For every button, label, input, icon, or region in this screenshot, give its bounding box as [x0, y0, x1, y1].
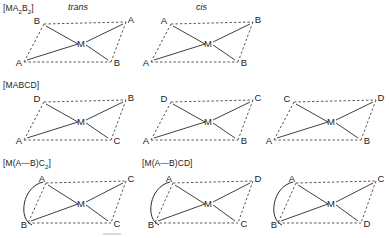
vertex-top-left: C [284, 93, 291, 104]
bond-m-topright [213, 183, 250, 202]
diagram-mabcd-1: D B A C M [18, 92, 143, 150]
bond-m-bottomright [86, 123, 108, 138]
vertex-top-left: A [39, 173, 46, 184]
bond-m-bottomleft [158, 204, 205, 221]
bond-m-topleft [175, 185, 205, 204]
vertex-bottom-right: D [364, 218, 371, 229]
edge-left [151, 24, 171, 62]
formula-ma2b2-prefix: [MA [3, 3, 18, 13]
bond-m-bottomright [213, 45, 235, 60]
metal-center: M [327, 198, 335, 209]
vertex-top-right: D [255, 173, 262, 184]
row-ma2b2: [MA2B2] trans B A A B M ci [0, 0, 384, 78]
bond-m-bottomright [336, 205, 358, 221]
vertex-bottom-left: A [143, 57, 150, 68]
edge-right [238, 100, 253, 140]
vertex-top-right: A [128, 14, 135, 25]
formula-chelate-c2-prefix: [M(A—B)C [3, 158, 45, 168]
formula-ma2b2: [MA2B2] [3, 3, 34, 15]
diagram-trans: B A A B M [18, 14, 143, 72]
vertex-bottom-right: B [364, 135, 370, 146]
bond-m-bottomright [213, 123, 235, 138]
bond-m-topright [86, 102, 123, 120]
bond-m-topright [213, 24, 250, 42]
edge-right [361, 100, 376, 140]
bond-m-topleft [173, 26, 205, 44]
metal-center: M [77, 198, 85, 209]
bond-m-topright [86, 183, 123, 202]
vertex-top-left: D [161, 93, 168, 104]
bond-m-topright [336, 102, 373, 120]
metal-center: M [204, 38, 212, 49]
vertex-bottom-left: A [143, 135, 150, 146]
bond-m-topleft [46, 104, 78, 122]
bond-m-topleft [298, 185, 328, 204]
metal-center: M [77, 38, 85, 49]
bond-m-bottomleft [27, 44, 78, 60]
vertex-bottom-right: B [241, 135, 247, 146]
metal-center: M [77, 116, 85, 127]
edge-right [238, 22, 253, 62]
scan-artifact [103, 233, 121, 235]
vertex-top-left: D [34, 93, 41, 104]
edge-top [171, 22, 253, 24]
metal-center: M [204, 116, 212, 127]
vertex-top-right: B [128, 92, 134, 103]
vertex-top-right: C [378, 173, 385, 184]
edge-top [44, 100, 126, 102]
vertex-top-right: B [255, 14, 261, 25]
diagram-chelate-3: A C B D M [268, 173, 389, 233]
bond-m-bottomleft [27, 122, 78, 138]
bond-m-bottomright [86, 205, 108, 221]
vertex-bottom-left: B [148, 219, 154, 230]
edge-right [111, 100, 126, 140]
bond-m-bottomright [86, 45, 108, 60]
bond-m-bottomright [213, 205, 235, 221]
isomer-label-trans: trans [68, 2, 88, 12]
vertex-bottom-left: A [266, 135, 273, 146]
edge-left [151, 102, 171, 140]
bond-m-topleft [296, 104, 328, 122]
bond-m-bottomright [336, 123, 358, 138]
vertex-top-left: A [166, 173, 173, 184]
edge-right [111, 181, 126, 223]
isomer-label-cis: cis [196, 2, 207, 12]
edge-right [238, 181, 253, 223]
bond-m-topright [213, 102, 250, 120]
bond-m-topright [86, 24, 123, 42]
edge-top [171, 100, 253, 102]
edge-left [24, 24, 44, 62]
vertex-top-left: A [161, 15, 168, 26]
edge-left [24, 102, 44, 140]
bond-m-bottomleft [154, 44, 205, 60]
vertex-bottom-right: B [114, 57, 120, 68]
vertex-bottom-right: B [241, 57, 247, 68]
bond-m-topleft [48, 185, 78, 204]
edge-left [274, 102, 294, 140]
bond-m-bottomleft [154, 122, 205, 138]
vertex-bottom-left: B [271, 219, 277, 230]
formula-chelate-c2: [M(A—B)C2] [3, 158, 51, 170]
vertex-top-right: C [255, 92, 262, 103]
metal-center: M [204, 198, 212, 209]
formula-ma2b2-suffix: ] [31, 3, 33, 13]
diagram-cis: A B A B M [145, 14, 270, 72]
metal-center: M [327, 116, 335, 127]
vertex-bottom-left: A [16, 135, 23, 146]
bond-m-bottomleft [281, 204, 328, 221]
vertex-bottom-right: C [241, 218, 248, 229]
vertex-bottom-left: A [16, 57, 23, 68]
vertex-bottom-left: B [21, 219, 27, 230]
vertex-bottom-right: C [114, 218, 121, 229]
bond-m-topleft [173, 104, 205, 122]
edge-top [296, 181, 376, 183]
formula-chelate-c2-suffix: ] [48, 158, 50, 168]
diagram-chelate-1: A C B C M [18, 173, 143, 233]
bond-m-topright [336, 183, 373, 202]
edge-right [111, 22, 126, 62]
row-mabcd: [MABCD] D B A C M [0, 78, 384, 155]
diagram-mabcd-2: D C A B M [145, 92, 270, 150]
vertex-top-left: A [289, 173, 296, 184]
bond-m-bottomleft [277, 122, 328, 138]
